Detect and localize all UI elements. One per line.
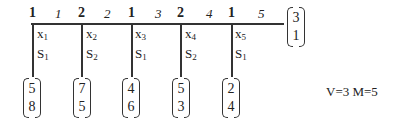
node-label: 1: [29, 6, 36, 20]
vector-bottom: 8: [23, 100, 41, 114]
variable-x: x3: [135, 27, 146, 44]
var-s-index: 2: [192, 52, 197, 62]
variable-s: S2: [185, 47, 197, 64]
variable-s: S1: [235, 47, 247, 64]
variable-s: S1: [135, 47, 147, 64]
vector-bottom: 6: [122, 100, 140, 114]
variable-x: x1: [37, 27, 48, 44]
vector-top: 4: [122, 82, 140, 96]
branch-line: [32, 23, 34, 77]
node-label: 2: [177, 6, 184, 20]
node-label: 2: [78, 6, 85, 20]
var-x-index: 1: [44, 32, 49, 42]
edge-label: 2: [104, 7, 111, 20]
vector-top: 3: [287, 11, 305, 25]
parameters-label: V=3 M=5: [326, 85, 378, 98]
edge-label: 4: [206, 7, 213, 20]
var-x-index: 5: [242, 32, 247, 42]
variable-s: S1: [37, 47, 49, 64]
edge-label: 5: [258, 7, 265, 20]
variable-s: S2: [86, 47, 98, 64]
vector-top: 2: [222, 82, 240, 96]
edge-label: 1: [55, 7, 62, 20]
vector-top: 7: [73, 82, 91, 96]
var-x-index: 4: [192, 32, 197, 42]
bottom-vector: 4 6: [122, 78, 140, 118]
variable-x: x2: [86, 27, 97, 44]
node-label: 1: [228, 6, 235, 20]
vector-bottom: 3: [172, 100, 190, 114]
bottom-vector: 7 5: [73, 78, 91, 118]
vector-top: 5: [172, 82, 190, 96]
var-s-index: 1: [142, 52, 147, 62]
var-s-index: 2: [93, 52, 98, 62]
var-x-index: 2: [93, 32, 98, 42]
var-s-index: 1: [44, 52, 49, 62]
vector-top: 5: [23, 82, 41, 96]
bottom-vector: 5 3: [172, 78, 190, 118]
variable-x: x5: [235, 27, 246, 44]
node-label: 1: [128, 6, 135, 20]
vector-bottom: 4: [222, 100, 240, 114]
var-x-index: 3: [142, 32, 147, 42]
main-horizontal-line: [31, 23, 284, 25]
edge-label: 3: [155, 7, 162, 20]
bottom-vector: 5 8: [23, 78, 41, 118]
variable-x: x4: [185, 27, 196, 44]
var-s-index: 1: [242, 52, 247, 62]
vector-bottom: 1: [287, 29, 305, 43]
vector-bottom: 5: [73, 100, 91, 114]
bottom-vector: 2 4: [222, 78, 240, 118]
branch-line: [231, 23, 233, 77]
branch-line: [131, 23, 133, 77]
branch-line: [81, 23, 83, 77]
branch-line: [180, 23, 182, 77]
end-vector: 3 1: [287, 7, 305, 47]
